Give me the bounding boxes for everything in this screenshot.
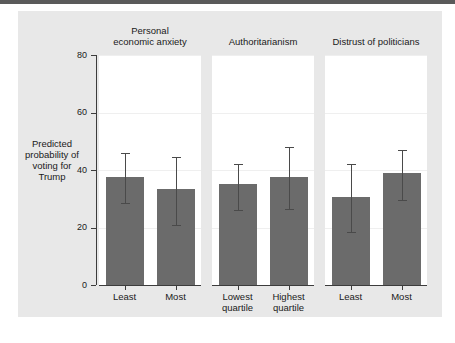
y-axis-tick-label: 0 [47,281,87,290]
x-axis-tick-label-line: Most [372,292,432,303]
x-axis-tick-label-line: Most [146,292,206,303]
gridline [212,170,314,171]
x-axis-line [99,285,201,286]
error-bar-cap-lower [234,210,243,211]
panel-title-line: Distrust of politicians [307,36,445,47]
y-axis-tick-label: 40 [47,166,87,175]
gridline [325,113,427,114]
x-axis-line [325,285,427,286]
error-bar-cap-upper [234,164,243,165]
chart-panel [212,55,314,285]
gridline [99,170,201,171]
gridline [325,170,427,171]
error-bar [351,164,352,232]
panel-title: Distrust of politicians [307,36,445,47]
x-axis-tick [402,286,403,290]
x-axis-tick-label: Most [372,292,432,303]
gridline [99,55,201,56]
error-bar-cap-lower [172,225,181,226]
panel-title-line: Personal [81,25,219,36]
x-axis-line [212,285,314,286]
x-axis-tick [125,286,126,290]
error-bar-cap-upper [398,150,407,151]
error-bar-cap-lower [121,203,130,204]
error-bar-cap-lower [285,209,294,210]
y-axis-tick-label: 60 [47,108,87,117]
y-axis-tick [91,170,96,171]
x-axis-tick-label: Most [146,292,206,303]
error-bar-cap-upper [121,153,130,154]
gridline [212,55,314,56]
error-bar-cap-upper [285,147,294,148]
y-axis-tick [91,228,96,229]
error-bar [289,147,290,209]
chart-panel [325,55,427,285]
y-axis-tick [91,55,96,56]
gridline [99,113,201,114]
error-bar [176,157,177,225]
y-axis-tick [91,285,96,286]
error-bar-cap-lower [347,232,356,233]
error-bar-cap-upper [347,164,356,165]
y-axis-tick [91,113,96,114]
y-axis-title: Predicted probability of voting for Trum… [20,138,84,182]
x-axis-tick [176,286,177,290]
x-axis-tick [289,286,290,290]
error-bar [238,164,239,210]
x-axis-tick-label: Highestquartile [259,292,319,313]
gridline [212,113,314,114]
y-axis-tick-label: 80 [47,51,87,60]
y-axis-tick-label: 20 [47,223,87,232]
error-bar-cap-upper [172,157,181,158]
chart-panel [99,55,201,285]
error-bar [125,153,126,203]
x-axis-tick-label-line: Highest [259,292,319,303]
error-bar [402,150,403,200]
error-bar-cap-lower [398,200,407,201]
x-axis-tick [351,286,352,290]
gridline [325,55,427,56]
figure: Predicted probability of voting for Trum… [0,0,455,343]
x-axis-tick [238,286,239,290]
x-axis-tick-label-line: quartile [259,303,319,314]
top-rule-divider [0,0,455,4]
y-axis-line [96,55,97,285]
